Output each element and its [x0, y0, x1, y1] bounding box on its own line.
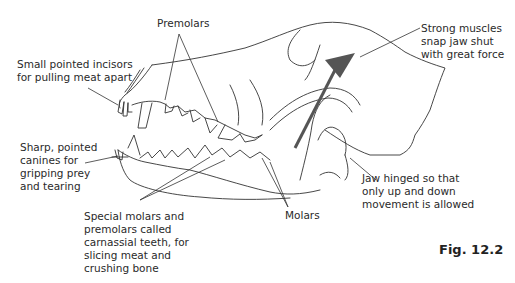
figure-caption: Fig. 12.2	[439, 242, 503, 257]
skull-outline	[152, 22, 445, 155]
label-molars: Molars	[285, 209, 320, 222]
muscle-arrow-icon	[295, 53, 355, 148]
label-muscles: Strong muscles snap jaw shut with great …	[421, 22, 504, 61]
label-carnassial: Special molars and premolars called carn…	[84, 210, 189, 275]
lower-jaw-outline	[118, 150, 320, 194]
label-incisors: Small pointed incisors for pulling meat …	[17, 58, 133, 84]
label-premolars: Premolars	[157, 17, 210, 30]
label-canines: Sharp, pointed canines for gripping prey…	[20, 141, 97, 193]
label-jaw-hinge: Jaw hinged so that only up and down move…	[362, 172, 474, 211]
